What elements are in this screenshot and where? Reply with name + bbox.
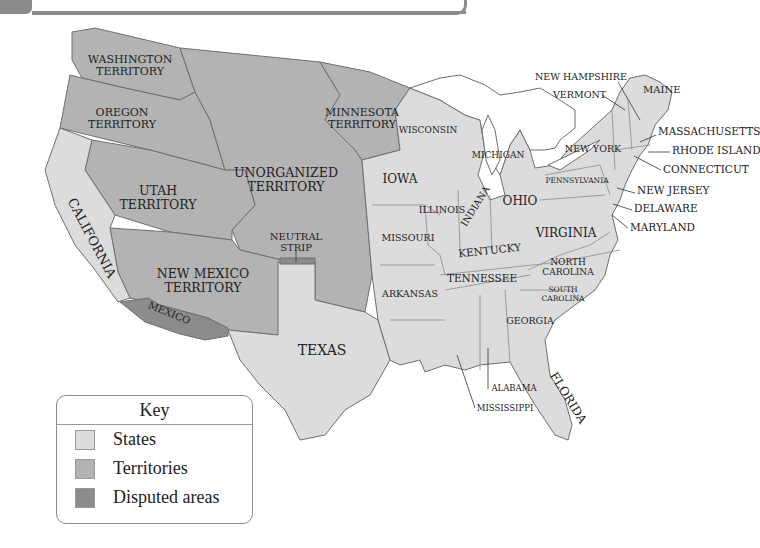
label-illinois: ILLINOIS (419, 204, 465, 215)
label-new-jersey: NEW JERSEY (637, 184, 711, 196)
label-new-york: NEW YORK (565, 143, 622, 154)
neutral-strip (280, 258, 315, 264)
label-maryland: MARYLAND (630, 221, 695, 233)
label-arkansas: ARKANSAS (381, 288, 438, 299)
label-connecticut: CONNECTICUT (663, 163, 749, 175)
label-georgia: GEORGIA (506, 315, 554, 326)
label-pennsylvania: PENNSYLVANIA (545, 176, 609, 185)
label-michigan: MICHIGAN (472, 150, 525, 160)
label-texas: TEXAS (298, 342, 347, 358)
label-maine: MAINE (643, 84, 680, 95)
key-title: Key (57, 396, 252, 425)
label-washington: WASHINGTONTERRITORY (88, 53, 173, 78)
label-rhode-island: RHODE ISLAND (672, 144, 760, 156)
label-unorganized: UNORGANIZEDTERRITORY (234, 165, 338, 194)
swatch-disputed (75, 488, 95, 508)
swatch-states (75, 430, 95, 450)
label-virginia: VIRGINIA (535, 226, 597, 240)
label-delaware: DELAWARE (634, 202, 698, 214)
key-item-states: States (57, 425, 252, 454)
label-mississippi: MISSISSIPPI (477, 403, 534, 413)
label-ohio: OHIO (503, 194, 538, 208)
key-item-territories: Territories (57, 454, 252, 483)
label-new-mexico: NEW MEXICOTERRITORY (157, 266, 249, 295)
label-alabama: ALABAMA (490, 383, 537, 393)
label-tennessee: TENNESSEE (447, 272, 517, 284)
label-new-hampshire: NEW HAMPSHIRE (535, 71, 627, 82)
label-massachusetts: MASSACHUSETTS (658, 125, 760, 137)
map-key: Key States Territories Disputed areas (56, 395, 253, 524)
key-label-territories: Territories (113, 458, 188, 479)
key-label-states: States (113, 429, 156, 450)
label-missouri: MISSOURI (381, 232, 434, 243)
label-iowa: IOWA (383, 172, 418, 186)
label-minnesota: MINNESOTATERRITORY (325, 106, 400, 131)
key-label-disputed: Disputed areas (113, 487, 219, 508)
label-vermont: VERMONT (552, 89, 607, 100)
label-oregon: OREGONTERRITORY (88, 106, 157, 131)
swatch-territories (75, 459, 95, 479)
label-wisconsin: WISCONSIN (399, 125, 458, 135)
key-item-disputed: Disputed areas (57, 483, 252, 512)
